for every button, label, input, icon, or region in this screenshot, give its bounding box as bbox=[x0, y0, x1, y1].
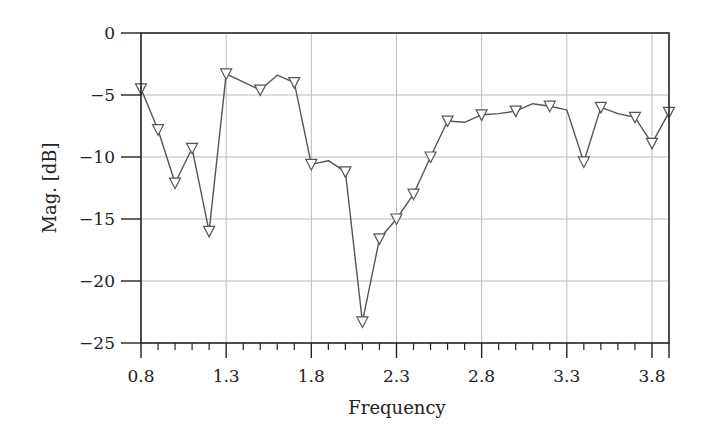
grid-lines bbox=[141, 33, 669, 343]
y-axis: 0−5−10−15−20−25 bbox=[79, 23, 141, 353]
triangle-down-marker-icon bbox=[255, 85, 266, 96]
data-series bbox=[136, 69, 675, 328]
triangle-down-marker-icon bbox=[221, 69, 232, 80]
triangle-down-marker-icon bbox=[170, 178, 181, 189]
x-tick-label: 3.3 bbox=[553, 366, 580, 386]
triangle-down-marker-icon bbox=[595, 102, 606, 113]
y-axis-title: Mag. [dB] bbox=[39, 143, 60, 234]
series-line bbox=[141, 74, 669, 322]
x-tick-label: 3.8 bbox=[638, 366, 665, 386]
triangle-down-marker-icon bbox=[306, 159, 317, 170]
line-chart: 0.81.31.82.32.83.33.8 0−5−10−15−20−25 Fr… bbox=[0, 0, 702, 444]
triangle-down-marker-icon bbox=[340, 167, 351, 178]
y-tick-label: −20 bbox=[79, 271, 115, 291]
triangle-down-marker-icon bbox=[153, 125, 164, 136]
triangle-down-marker-icon bbox=[629, 112, 640, 123]
triangle-down-marker-icon bbox=[408, 189, 419, 200]
triangle-down-marker-icon bbox=[578, 157, 589, 168]
triangle-down-marker-icon bbox=[204, 226, 215, 237]
y-tick-label: −25 bbox=[79, 333, 115, 353]
chart: 0.81.31.82.32.83.33.8 0−5−10−15−20−25 Fr… bbox=[0, 0, 702, 444]
triangle-down-marker-icon bbox=[289, 78, 300, 89]
triangle-down-marker-icon bbox=[374, 234, 385, 245]
y-tick-label: 0 bbox=[104, 23, 115, 43]
x-tick-label: 2.3 bbox=[383, 366, 410, 386]
triangle-down-marker-icon bbox=[646, 138, 657, 149]
y-tick-label: −15 bbox=[79, 209, 115, 229]
y-tick-label: −5 bbox=[90, 85, 115, 105]
x-tick-label: 1.8 bbox=[298, 366, 325, 386]
triangle-down-marker-icon bbox=[357, 317, 368, 328]
x-tick-label: 1.3 bbox=[213, 366, 240, 386]
y-tick-label: −10 bbox=[79, 147, 115, 167]
plot-border bbox=[141, 33, 669, 343]
triangle-down-marker-icon bbox=[187, 143, 198, 154]
x-tick-label: 0.8 bbox=[127, 366, 154, 386]
plot-frame bbox=[141, 33, 669, 343]
x-axis: 0.81.31.82.32.83.33.8 bbox=[127, 343, 669, 386]
x-tick-label: 2.8 bbox=[468, 366, 495, 386]
x-axis-title: Frequency bbox=[348, 397, 446, 418]
